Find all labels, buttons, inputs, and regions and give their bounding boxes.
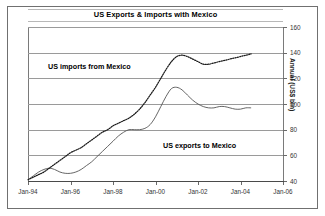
x-tick-label-2006: Jan-06 — [273, 188, 292, 195]
annotation-exports-label: US exports to Mexico — [163, 141, 236, 150]
y-axis-title: Annual (US$ bln) — [289, 58, 296, 111]
annotation-imports-label: US imports from Mexico — [48, 62, 131, 71]
chart-title: US Exports & Imports with Mexico — [28, 10, 283, 19]
y-tick-label-160: 160 — [290, 24, 301, 31]
x-tick-label-1994: Jan-94 — [18, 188, 37, 195]
x-tick-label-2002: Jan-02 — [188, 188, 207, 195]
title-rule-bottom — [28, 21, 283, 22]
y-tick-label-140: 140 — [290, 49, 301, 56]
y-tick-mark-80 — [283, 130, 287, 131]
y-tick-label-80: 80 — [290, 126, 297, 133]
y-tick-mark-140 — [283, 53, 287, 54]
y-tick-label-60: 60 — [290, 152, 297, 159]
x-tick-label-1998: Jan-98 — [103, 188, 122, 195]
x-tick-label-2000: Jan-00 — [146, 188, 165, 195]
chart-figure: US Exports & Imports with Mexico 4060801… — [0, 0, 325, 216]
series-curves — [28, 27, 283, 181]
y-tick-label-40: 40 — [290, 178, 297, 185]
y-tick-mark-60 — [283, 155, 287, 156]
x-tick-label-2004: Jan-04 — [231, 188, 250, 195]
x-axis-line — [28, 181, 284, 182]
y-tick-mark-120 — [283, 78, 287, 79]
x-tick-label-1996: Jan-96 — [61, 188, 80, 195]
y-tick-mark-160 — [283, 27, 287, 28]
series-line-exports — [28, 87, 251, 180]
y-tick-mark-100 — [283, 104, 287, 105]
series-line-imports — [28, 54, 251, 180]
